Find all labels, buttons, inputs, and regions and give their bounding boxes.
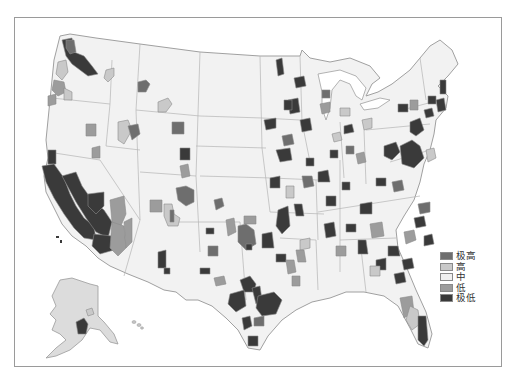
map-region <box>300 238 310 250</box>
map-region <box>404 230 416 244</box>
map-region <box>200 268 210 274</box>
map-region <box>294 204 304 216</box>
map-region <box>150 200 162 212</box>
map-region <box>248 336 258 346</box>
legend-label: 高 <box>456 262 466 272</box>
map-region <box>170 210 174 222</box>
map-region <box>318 170 330 182</box>
map-region <box>358 240 368 254</box>
map-region <box>180 148 190 160</box>
legend-item-medium: 中 <box>440 272 476 283</box>
map-region <box>306 158 314 166</box>
map-region <box>264 118 276 130</box>
map-region <box>254 316 264 326</box>
map-region <box>388 246 400 256</box>
choropleth-map <box>0 0 515 383</box>
map-region <box>424 234 434 246</box>
map-region <box>86 124 96 136</box>
legend-label: 低 <box>456 283 466 293</box>
us-mainland-outline <box>44 34 458 350</box>
map-region <box>394 272 406 284</box>
map-region <box>208 246 218 256</box>
map-region <box>418 202 430 214</box>
map-region <box>344 124 354 134</box>
map-region <box>424 108 434 118</box>
map-region <box>402 258 414 270</box>
map-region <box>414 216 426 228</box>
map-region <box>340 108 350 116</box>
map-region <box>428 96 436 104</box>
map-region <box>410 100 418 110</box>
map-region <box>292 276 300 286</box>
legend-label: 极高 <box>456 251 476 261</box>
map-region <box>330 150 338 158</box>
legend-swatch <box>440 284 453 292</box>
map-region <box>436 98 446 112</box>
map-region <box>392 180 404 192</box>
map-region <box>336 246 346 256</box>
map-region <box>302 176 314 188</box>
map-region <box>398 104 408 112</box>
map-region <box>244 216 256 224</box>
map-region <box>320 102 330 114</box>
map-region <box>286 260 296 274</box>
map-region <box>48 150 56 164</box>
map-region <box>172 122 184 134</box>
map-region <box>324 222 336 238</box>
legend-item-very-high: 极高 <box>440 251 476 262</box>
map-region <box>418 316 428 346</box>
map-region <box>376 178 386 186</box>
map-region <box>426 148 436 162</box>
legend-item-very-low: 极低 <box>440 293 476 304</box>
map-region <box>214 276 226 286</box>
map-region <box>346 224 356 232</box>
alaska-outline <box>46 278 118 358</box>
map-region <box>48 94 56 106</box>
legend-swatch <box>440 252 453 260</box>
map-region <box>270 176 280 188</box>
map-region <box>284 100 292 110</box>
map-region <box>300 118 312 132</box>
legend: 极高 高 中 低 极低 <box>440 251 476 304</box>
map-region <box>360 202 372 214</box>
map-region <box>346 146 354 154</box>
legend-label: 极低 <box>456 293 476 303</box>
map-region <box>296 250 306 262</box>
legend-swatch <box>440 263 453 271</box>
map-region <box>282 134 294 146</box>
map-region <box>322 90 330 98</box>
map-region <box>286 186 294 198</box>
legend-label: 中 <box>456 272 466 282</box>
map-region <box>332 132 342 142</box>
map-region <box>92 146 100 158</box>
map-region <box>158 250 166 268</box>
map-region <box>276 254 286 262</box>
map-region <box>326 196 336 206</box>
map-region <box>262 232 274 248</box>
hawaii-islands <box>132 321 144 330</box>
map-region <box>294 76 306 88</box>
map-region <box>206 228 214 234</box>
map-region <box>164 268 170 274</box>
map-region <box>370 222 384 238</box>
channel-islands <box>56 236 62 243</box>
map-region <box>370 266 380 276</box>
map-region <box>246 244 252 250</box>
map-region <box>342 182 350 190</box>
map-region <box>356 152 366 164</box>
legend-swatch <box>440 273 453 281</box>
map-region <box>440 80 446 94</box>
legend-swatch <box>440 294 453 302</box>
map-region <box>180 164 190 178</box>
map-region <box>362 118 372 130</box>
